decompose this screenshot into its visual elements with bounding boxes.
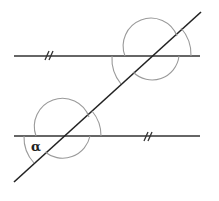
angle-alpha-label: α <box>31 139 41 154</box>
geometry-diagram: α <box>0 0 219 201</box>
upper-angle-arcs <box>112 18 191 84</box>
transversal-line <box>14 12 201 182</box>
